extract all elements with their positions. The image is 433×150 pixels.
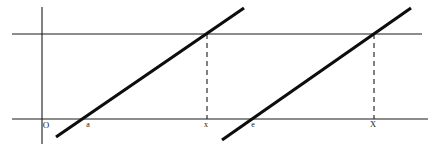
label-e: e — [251, 120, 255, 129]
label-origin: O — [43, 120, 50, 130]
graph-canvas: O a x e X — [0, 0, 433, 150]
label-a: a — [86, 120, 90, 129]
label-x-lower: x — [204, 120, 208, 129]
label-X-upper: X — [370, 119, 376, 129]
graph-segment-1 — [56, 8, 244, 137]
graph-figure: O a x e X — [0, 0, 433, 150]
